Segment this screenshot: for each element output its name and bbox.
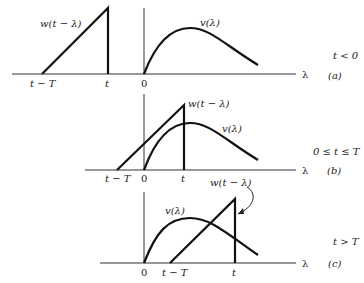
panel-c: w(t − λ) v(λ) 0 t − T t λ (c) t > T (100, 177, 360, 278)
panel-tag-c: (c) (328, 258, 342, 269)
v-label-c: v(λ) (165, 205, 185, 216)
axis-label-c: λ (302, 258, 309, 269)
panel-tag-a: (a) (328, 70, 342, 81)
panel-tag-b: (b) (327, 165, 341, 176)
w-label-a: w(t − λ) (40, 18, 82, 29)
panel-b: w(t − λ) v(λ) t − T 0 t λ (b) 0 ≤ t ≤ T (85, 94, 361, 184)
w-pointer-arrow-c (238, 187, 253, 214)
axis-label-b: λ (302, 165, 309, 176)
panel-a: w(t − λ) v(λ) t − T t 0 λ (a) t < 0 (12, 8, 359, 89)
tick-t-minus-T-c: t − T (162, 267, 189, 278)
tick-t-a: t (105, 78, 110, 89)
v-curve-c (144, 218, 258, 263)
tick-zero-c: 0 (141, 267, 147, 278)
arrowhead-icon (238, 208, 244, 214)
tick-t-b: t (181, 173, 186, 184)
convolution-diagram: w(t − λ) v(λ) t − T t 0 λ (a) t < 0 w(t … (0, 0, 364, 283)
tick-zero-b: 0 (141, 173, 147, 184)
w-label-c: w(t − λ) (210, 177, 252, 188)
tick-zero-a: 0 (141, 78, 147, 89)
v-label-a: v(λ) (200, 17, 220, 28)
w-label-b: w(t − λ) (188, 98, 230, 109)
v-label-b: v(λ) (222, 123, 242, 134)
axis-label-a: λ (302, 69, 309, 80)
condition-b: 0 ≤ t ≤ T (313, 146, 361, 157)
condition-c: t > T (333, 236, 360, 247)
v-curve-a (144, 28, 258, 74)
tick-t-minus-T-a: t − T (30, 78, 57, 89)
w-triangle-b (117, 105, 184, 170)
tick-t-minus-T-b: t − T (105, 173, 132, 184)
tick-t-c: t (232, 267, 237, 278)
condition-a: t < 0 (333, 50, 359, 61)
